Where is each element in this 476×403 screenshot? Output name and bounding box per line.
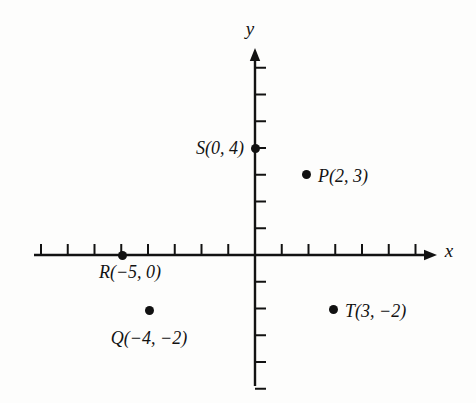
- point-dot-p: [302, 170, 311, 179]
- x-axis-label: x: [445, 241, 453, 260]
- coordinate-plane-figure: x y P(2, 3)Q(−4, −2)R(−5, 0)S(0, 4)T(3, …: [0, 0, 476, 403]
- point-label-r: R(−5, 0): [99, 263, 161, 281]
- y-axis-ticks-group: [255, 68, 266, 389]
- point-label-t: T(3, −2): [345, 302, 406, 320]
- point-dot-s: [251, 144, 260, 153]
- point-label-q: Q(−4, −2): [111, 329, 187, 347]
- y-axis-arrowhead: [250, 48, 260, 61]
- y-axis-label: y: [246, 19, 254, 38]
- coordinate-axes-svg: [0, 0, 476, 403]
- point-label-p: P(2, 3): [318, 167, 368, 185]
- point-dot-q: [145, 306, 154, 315]
- x-axis-arrowhead: [424, 250, 437, 260]
- point-dot-r: [118, 251, 127, 260]
- x-axis-ticks-group: [41, 244, 416, 255]
- point-dot-t: [329, 305, 338, 314]
- axis-lines-group: [34, 48, 437, 386]
- point-label-s: S(0, 4): [196, 139, 244, 157]
